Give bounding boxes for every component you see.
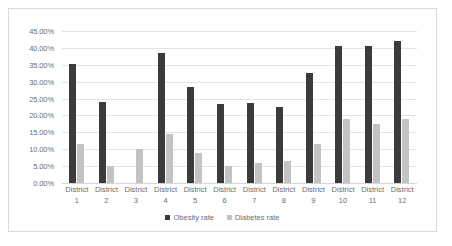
legend-swatch-icon [227,215,232,220]
bar-diabetes [225,166,232,183]
y-axis-tick-label: 15.00% [29,128,54,137]
x-axis-tick-label: District12 [381,185,424,206]
bar-group [387,31,417,183]
bar-obesity [158,53,165,183]
bar-diabetes [255,163,262,183]
y-axis-tick-label: 10.00% [29,145,54,154]
bar-diabetes [314,144,321,183]
chart-container: 0.00%5.00%10.00%15.00%20.00%25.00%30.00%… [8,8,437,232]
bar-diabetes [402,119,409,183]
legend-item-diabetes-rate: Diabetes rate [227,213,280,222]
gridline [62,183,417,184]
bar-group [121,31,151,183]
bar-diabetes [107,166,114,183]
bar-obesity [187,87,194,183]
bar-obesity [335,46,342,183]
x-axis: District1District2District3District4Dist… [62,185,417,215]
bar-obesity [247,103,254,183]
bar-group [358,31,388,183]
bar-group [92,31,122,183]
bar-group [328,31,358,183]
bar-obesity [217,104,224,183]
legend-item-obesity-rate: Obesity rate [165,213,213,222]
bar-diabetes [136,149,143,183]
bar-obesity [276,107,283,183]
bar-group [210,31,240,183]
chart-legend: Obesity rateDiabetes rate [9,213,436,222]
bar-diabetes [166,134,173,183]
y-axis-tick-label: 20.00% [29,111,54,120]
bar-obesity [99,102,106,183]
bar-obesity [365,46,372,183]
plot-area [62,31,417,183]
y-axis-tick-label: 25.00% [29,94,54,103]
y-axis: 0.00%5.00%10.00%15.00%20.00%25.00%30.00%… [9,31,58,183]
bar-diabetes [195,153,202,183]
bar-diabetes [284,161,291,183]
bar-obesity [306,73,313,183]
bar-diabetes [77,144,84,183]
bar-group [151,31,181,183]
bar-group [269,31,299,183]
bar-obesity [394,41,401,183]
x-axis-tick-label-line: District [381,185,424,196]
y-axis-tick-label: 30.00% [29,77,54,86]
bar-group [62,31,92,183]
y-axis-tick-label: 45.00% [29,27,54,36]
bar-diabetes [343,119,350,183]
y-axis-tick-label: 0.00% [33,179,54,188]
y-axis-tick-label: 35.00% [29,60,54,69]
bar-diabetes [373,124,380,183]
y-axis-tick-label: 5.00% [33,162,54,171]
x-axis-tick-label-line: 12 [381,196,424,207]
legend-swatch-icon [165,215,170,220]
bar-obesity [69,64,76,183]
bar-group [240,31,270,183]
legend-label: Diabetes rate [235,213,280,222]
legend-label: Obesity rate [173,213,213,222]
bar-group [180,31,210,183]
bar-group [299,31,329,183]
y-axis-tick-label: 40.00% [29,43,54,52]
